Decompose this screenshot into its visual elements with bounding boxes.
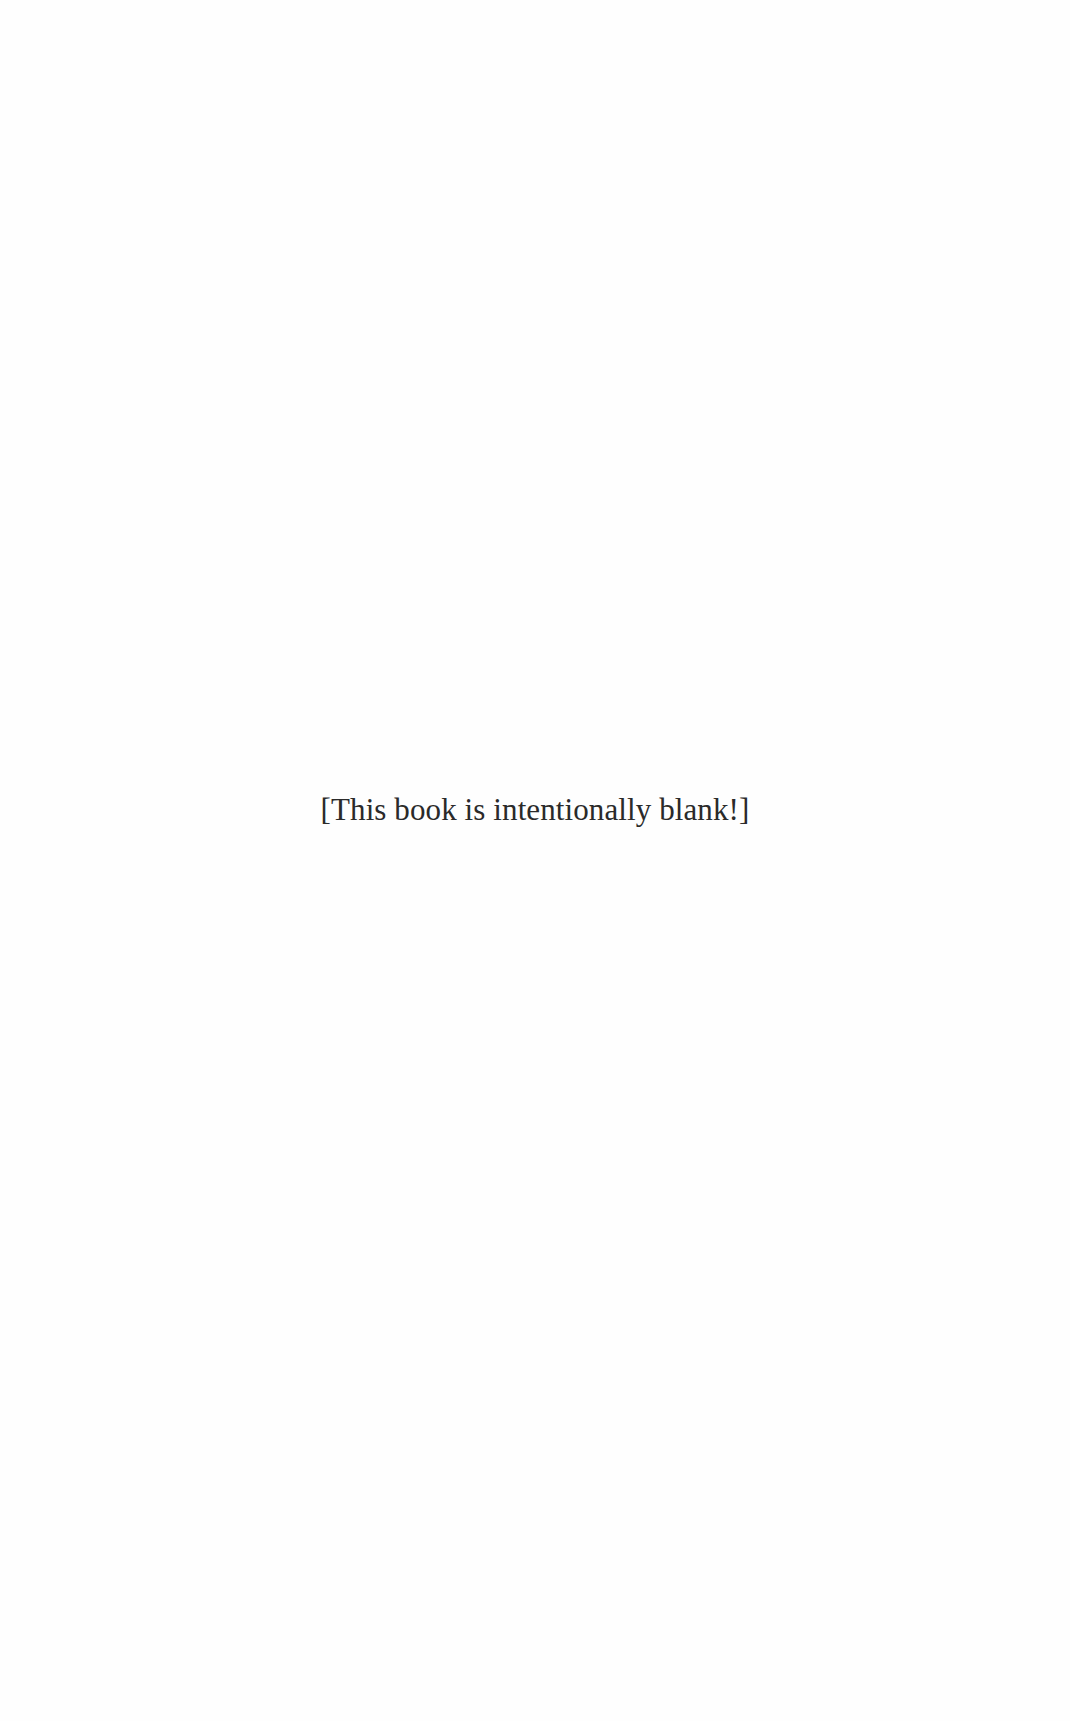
book-page: [This book is intentionally blank!]	[0, 0, 1070, 1721]
intentionally-blank-notice: [This book is intentionally blank!]	[0, 790, 1070, 830]
